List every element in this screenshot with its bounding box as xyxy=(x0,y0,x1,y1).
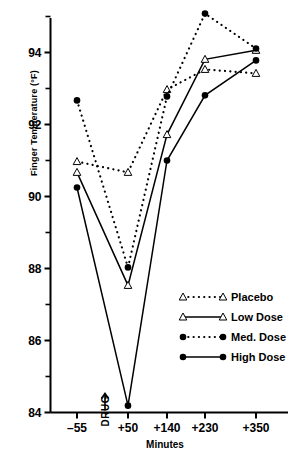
x-tick-label: +140 xyxy=(153,421,180,435)
data-point-marker xyxy=(202,10,209,17)
legend-marker-icon xyxy=(220,354,227,361)
plot-area: DRUG 848688909294–55+50+140+230+350Minut… xyxy=(0,0,289,467)
y-tick-label: 84 xyxy=(28,406,42,420)
data-point-marker xyxy=(74,184,81,191)
data-point-marker xyxy=(201,65,209,72)
drug-annotation-label: DRUG xyxy=(100,395,111,426)
legend-label: Med. Dose xyxy=(231,331,286,343)
legend-marker-icon xyxy=(220,334,227,341)
legend: PlaceboLow DoseMed. DoseHigh Dose xyxy=(179,291,286,363)
annotation-group: DRUG xyxy=(100,394,111,427)
data-point-marker xyxy=(125,402,132,409)
legend-marker-icon xyxy=(180,334,187,341)
x-tick-label: +350 xyxy=(242,421,269,435)
data-point-marker xyxy=(253,45,260,52)
y-tick-label: 88 xyxy=(28,262,42,276)
data-point-marker xyxy=(164,157,171,164)
data-point-marker xyxy=(202,92,209,99)
data-point-marker xyxy=(125,264,132,271)
legend-label: Low Dose xyxy=(231,311,283,323)
legend-label: Placebo xyxy=(231,291,273,303)
data-point-marker xyxy=(124,281,132,288)
x-tick-label: +230 xyxy=(191,421,218,435)
finger-temperature-chart: Finger Temperature (°F) DRUG 84868890929… xyxy=(0,0,289,467)
series-med-dose xyxy=(74,10,260,270)
y-tick-label: 86 xyxy=(28,334,42,348)
data-point-marker xyxy=(163,131,171,138)
series-group xyxy=(73,10,260,409)
series-line xyxy=(77,14,256,268)
legend-marker-icon xyxy=(180,354,187,361)
legend-marker-icon xyxy=(179,293,187,300)
data-point-marker xyxy=(74,97,81,104)
data-point-marker xyxy=(164,93,171,100)
data-point-marker xyxy=(253,57,260,64)
x-tick-label: +50 xyxy=(118,421,139,435)
data-point-marker xyxy=(124,168,132,175)
y-tick-label: 94 xyxy=(28,46,42,60)
x-tick-label: –55 xyxy=(67,421,87,435)
data-point-marker xyxy=(73,168,81,175)
y-tick-label: 90 xyxy=(28,190,42,204)
x-axis-title: Minutes xyxy=(146,439,184,450)
series-line xyxy=(77,69,256,172)
data-point-marker xyxy=(252,69,260,76)
y-tick-label: 92 xyxy=(28,118,42,132)
data-point-marker xyxy=(73,158,81,165)
axis-labels-group: 848688909294–55+50+140+230+350Minutes xyxy=(28,46,270,450)
legend-label: High Dose xyxy=(231,351,285,363)
